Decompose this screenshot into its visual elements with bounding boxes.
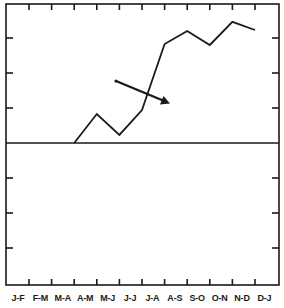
x-label: O-N [212,293,228,303]
line-chart [0,0,284,290]
x-label: J-F [12,293,25,303]
x-label: M-J [100,293,115,303]
x-label: S-O [189,293,204,303]
x-label: J-A [145,293,159,303]
x-label: M-A [55,293,71,303]
x-label: A-M [77,293,93,303]
x-axis-labels: J-F F-M M-A A-M M-J J-J J-A A-S S-O O-N … [0,290,284,308]
axis-ticks [6,4,279,285]
data-line [74,22,255,143]
x-label: J-J [124,293,136,303]
trend-arrow [114,79,170,104]
x-label: D-J [257,293,271,303]
plot-frame [6,4,279,285]
x-label: N-D [234,293,249,303]
x-label: F-M [33,293,48,303]
x-label: A-S [167,293,182,303]
